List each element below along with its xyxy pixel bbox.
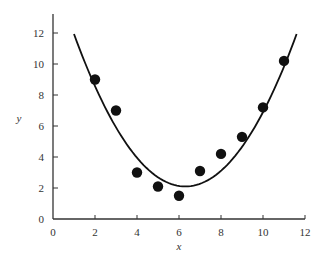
x-tick-label: 0 (50, 226, 56, 238)
y-tick-label: 6 (39, 120, 45, 132)
axes: 024681012024681012 (33, 14, 311, 238)
y-tick-label: 12 (33, 27, 44, 39)
data-point (216, 149, 226, 159)
data-point (258, 102, 268, 112)
data-point (111, 105, 121, 115)
x-axis-label: x (176, 240, 182, 252)
x-tick-label: 4 (134, 226, 140, 238)
data-point (90, 74, 100, 84)
data-point (174, 191, 184, 201)
x-tick-label: 6 (176, 226, 182, 238)
scatter-chart: 024681012024681012 x y (0, 0, 327, 265)
y-tick-label: 8 (39, 89, 45, 101)
y-tick-label: 10 (33, 58, 45, 70)
y-axis-label: y (16, 112, 22, 124)
y-tick-label: 2 (39, 182, 45, 194)
x-tick-label: 12 (300, 226, 311, 238)
y-tick-label: 4 (39, 151, 45, 163)
data-points (90, 56, 289, 201)
data-point (132, 167, 142, 177)
x-tick-label: 10 (258, 226, 270, 238)
x-tick-label: 2 (92, 226, 98, 238)
y-tick-label: 0 (39, 213, 45, 225)
x-tick-label: 8 (218, 226, 224, 238)
data-point (237, 132, 247, 142)
data-point (195, 166, 205, 176)
data-point (153, 181, 163, 191)
data-point (279, 56, 289, 66)
